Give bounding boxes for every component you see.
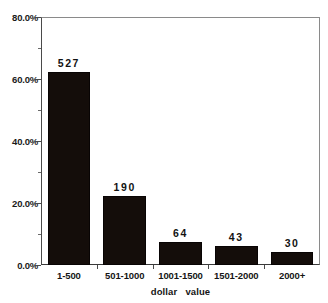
bar-value-label: 527: [41, 57, 97, 69]
x-axis-title: dollar value: [41, 286, 320, 297]
x-tick-label: 1501-2000: [208, 270, 264, 281]
y-tick-label: 80.0%: [0, 12, 38, 23]
x-tick: [208, 265, 209, 269]
x-tick: [264, 265, 265, 269]
x-tick-label: 2000+: [264, 270, 320, 281]
bar: [271, 252, 313, 265]
bar: [48, 72, 90, 265]
bar: [215, 246, 257, 265]
bar-chart: 0.0%20.0%40.0%60.0%80.0% dollar value 52…: [0, 0, 328, 303]
y-tick-label: 40.0%: [0, 136, 38, 147]
y-tick-label: 60.0%: [0, 74, 38, 85]
y-tick-minor: [38, 110, 41, 111]
y-tick-major: [35, 203, 41, 204]
bar-value-label: 30: [264, 237, 320, 249]
y-tick-minor: [38, 48, 41, 49]
y-tick-major: [35, 265, 41, 266]
bar: [103, 196, 145, 265]
y-axis: 0.0%20.0%40.0%60.0%80.0%: [0, 0, 38, 303]
bar-value-label: 43: [208, 231, 264, 243]
x-tick-label: 501-1000: [97, 270, 153, 281]
x-tick: [97, 265, 98, 269]
y-tick-major: [35, 17, 41, 18]
y-tick-minor: [38, 234, 41, 235]
y-tick-major: [35, 79, 41, 80]
y-tick-minor: [38, 172, 41, 173]
bar: [159, 242, 201, 265]
x-tick-label: 1-500: [41, 270, 97, 281]
bar-value-label: 190: [97, 181, 153, 193]
y-tick-label: 20.0%: [0, 198, 38, 209]
y-tick-major: [35, 141, 41, 142]
x-tick: [153, 265, 154, 269]
y-tick-label: 0.0%: [0, 260, 38, 271]
bar-value-label: 64: [153, 227, 209, 239]
x-tick-label: 1001-1500: [153, 270, 209, 281]
